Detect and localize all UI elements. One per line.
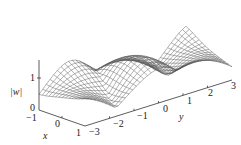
- surface-mesh-path: [39, 26, 232, 107]
- y-tick-label-3: 3: [231, 81, 236, 91]
- x-tick-label-m1: −1: [26, 113, 37, 123]
- x-axis-label: x: [43, 131, 47, 141]
- z-tick-label-1: 1: [30, 73, 35, 83]
- x-tick-label-0: 0: [55, 119, 60, 129]
- y-tick-label-0: 0: [163, 104, 168, 114]
- z-axis-label: |w|: [10, 87, 22, 97]
- wireframe-surface: [39, 26, 232, 107]
- y-tick-label-m1: −1: [137, 111, 148, 121]
- x-tick-label-1: 1: [76, 128, 81, 138]
- y-axis-label: y: [179, 112, 183, 122]
- y-tick-label-2: 2: [208, 88, 213, 98]
- y-tick-label-1: 1: [187, 96, 192, 106]
- y-tick-label-m3: −3: [89, 127, 100, 137]
- y-tick-label-m2: −2: [113, 119, 124, 129]
